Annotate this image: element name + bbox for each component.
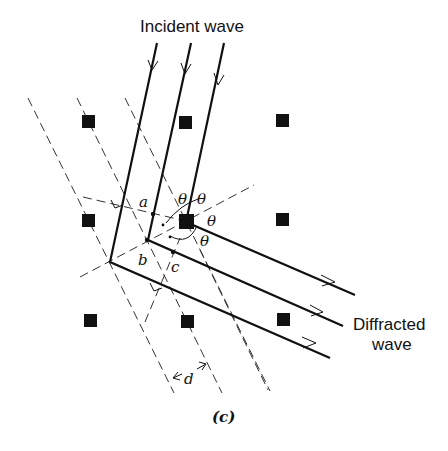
point-c-label: c	[171, 258, 180, 276]
wavefronts	[80, 185, 268, 390]
lattice-planes	[28, 98, 270, 393]
theta-label-1: θ	[178, 190, 187, 208]
figure-caption: (c)	[212, 408, 235, 426]
diffraction-diagram: Incident wave Diffracted wave a b c θ θ …	[0, 0, 448, 451]
spacing-d-label: d	[184, 370, 194, 388]
theta-label-4: θ	[200, 232, 209, 250]
point-a-label: a	[139, 193, 148, 211]
theta-label-3: θ	[207, 212, 216, 230]
point-b-label: b	[138, 251, 148, 269]
diffracted-wave-label-1: Diffracted	[353, 315, 425, 334]
theta-label-2: θ	[197, 190, 206, 208]
incident-wave-label: Incident wave	[140, 17, 244, 36]
diffracted-wave-label-2: wave	[371, 335, 412, 354]
